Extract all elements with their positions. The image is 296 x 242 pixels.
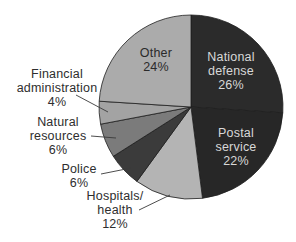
svg-text:Police: Police (61, 162, 96, 176)
svg-text:Other: Other (140, 46, 172, 60)
svg-text:administration: administration (17, 81, 98, 95)
label-police: Police 6% (61, 162, 96, 190)
pie-chart: Other 24% National defense 26% Postal se… (0, 0, 296, 242)
svg-text:4%: 4% (48, 95, 66, 109)
svg-text:health: health (97, 203, 132, 217)
svg-text:Financial: Financial (31, 67, 83, 81)
svg-text:resources: resources (30, 129, 87, 143)
leader-hospitals-health (139, 195, 170, 210)
svg-text:22%: 22% (223, 154, 249, 168)
pie-slices (99, 15, 283, 199)
svg-text:service: service (216, 140, 257, 154)
svg-text:Postal: Postal (218, 126, 254, 140)
svg-text:12%: 12% (102, 217, 128, 231)
svg-text:National: National (207, 50, 254, 64)
label-natural-resources: Natural resources 6% (30, 115, 87, 157)
svg-text:Natural: Natural (37, 115, 79, 129)
label-other: Other 24% (140, 46, 172, 74)
svg-text:defense: defense (208, 64, 254, 78)
svg-text:Hospitals/: Hospitals/ (87, 189, 144, 203)
label-financial-administration: Financial administration 4% (17, 67, 98, 109)
svg-text:24%: 24% (143, 60, 169, 74)
label-hospitals-health: Hospitals/ health 12% (87, 189, 144, 231)
svg-text:6%: 6% (49, 143, 67, 157)
svg-text:6%: 6% (70, 176, 88, 190)
svg-text:26%: 26% (218, 78, 244, 92)
